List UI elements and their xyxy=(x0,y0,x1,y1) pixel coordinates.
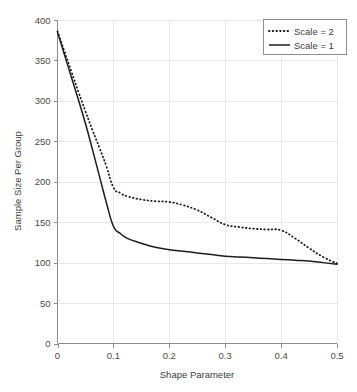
x-tick-labels: 00.10.20.30.40.5 xyxy=(55,350,344,361)
legend-label-scale-1: Scale = 1 xyxy=(294,40,334,51)
y-tick-label: 400 xyxy=(35,15,51,26)
data-series xyxy=(58,31,338,264)
chart-figure: 050100150200250300350400 00.10.20.30.40.… xyxy=(0,0,357,392)
x-tick-label: 0.4 xyxy=(274,350,287,361)
legend-label-scale-2: Scale = 2 xyxy=(294,26,334,37)
axes xyxy=(58,20,338,344)
y-tick-label: 150 xyxy=(35,217,51,228)
legend: Scale = 2 Scale = 1 xyxy=(264,20,347,55)
series-line-scale-2 xyxy=(58,31,338,263)
y-tick-label: 0 xyxy=(45,338,50,349)
x-tick-label: 0.5 xyxy=(330,350,343,361)
x-tick-label: 0.1 xyxy=(107,350,120,361)
x-tick-label: 0.2 xyxy=(163,350,176,361)
y-tick-label: 200 xyxy=(35,176,51,187)
y-tick-label: 250 xyxy=(35,136,51,147)
series-line-scale-1 xyxy=(58,32,338,264)
x-tick-label: 0 xyxy=(55,350,60,361)
y-tick-label: 300 xyxy=(35,95,51,106)
y-tick-label: 100 xyxy=(35,257,51,268)
line-chart: 050100150200250300350400 00.10.20.30.40.… xyxy=(0,0,357,392)
y-tick-labels: 050100150200250300350400 xyxy=(35,15,51,350)
tick-marks xyxy=(54,21,338,348)
x-tick-label: 0.3 xyxy=(219,350,232,361)
y-axis-title: Sample Size Per Group xyxy=(12,131,23,231)
y-tick-label: 350 xyxy=(35,55,51,66)
y-tick-label: 50 xyxy=(40,298,51,309)
gridlines xyxy=(58,20,338,344)
x-axis-title: Shape Parameter xyxy=(160,369,234,380)
